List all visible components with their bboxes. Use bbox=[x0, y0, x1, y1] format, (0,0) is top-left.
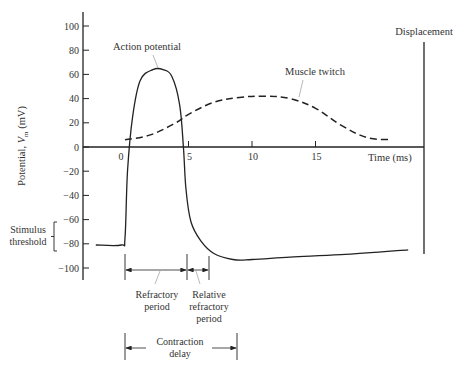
y-tick-label: −60 bbox=[63, 214, 79, 225]
refractory-label-2: period bbox=[144, 301, 170, 312]
displacement-label: Displacement bbox=[395, 26, 453, 37]
action-potential-curve bbox=[96, 68, 408, 260]
x-axis-label: Time (ms) bbox=[368, 152, 412, 164]
x-tick-label: 0 bbox=[119, 151, 124, 162]
action-potential-label: Action potential bbox=[113, 41, 181, 52]
muscle-twitch-curve bbox=[125, 96, 389, 140]
contraction-delay-label-2: delay bbox=[169, 348, 191, 359]
y-tick-label: −40 bbox=[63, 190, 79, 201]
relative-refractory-label-2: refractory bbox=[189, 301, 228, 312]
relative-refractory-label-3: period bbox=[196, 313, 222, 324]
y-tick-label: 40 bbox=[69, 93, 79, 104]
x-tick-label: 15 bbox=[312, 151, 322, 162]
stimulus-threshold-label-2: threshold bbox=[9, 236, 46, 247]
contraction-delay-label-1: Contraction bbox=[156, 336, 203, 347]
y-tick-label: 80 bbox=[69, 45, 79, 56]
y-tick-label: −20 bbox=[63, 166, 79, 177]
x-axis-ticks: 051015 bbox=[119, 141, 322, 162]
y-tick-label: −80 bbox=[63, 238, 79, 249]
y-tick-label: 0 bbox=[74, 142, 79, 153]
y-tick-label: 60 bbox=[69, 69, 79, 80]
refractory-label-1: Refractory bbox=[136, 289, 179, 300]
stimulus-threshold-label-1: Stimulus bbox=[10, 224, 46, 235]
action-potential-leader bbox=[153, 55, 158, 68]
y-axis-label: Potential, Vm (mV) bbox=[16, 106, 30, 186]
x-tick-label: 10 bbox=[248, 151, 258, 162]
y-tick-label: 100 bbox=[64, 21, 79, 32]
stimulus-threshold-bracket bbox=[51, 222, 57, 251]
relative-refractory-label-1: Relative bbox=[192, 289, 226, 300]
relative-refractory-leader bbox=[196, 271, 200, 284]
action-potential-chart: 100806040200−20−40−60−80−100 051015 Disp… bbox=[0, 0, 460, 372]
y-tick-label: 20 bbox=[69, 117, 79, 128]
refractory-leader bbox=[155, 271, 160, 284]
muscle-twitch-leader bbox=[299, 80, 303, 97]
x-tick-label: 5 bbox=[187, 151, 192, 162]
muscle-twitch-label: Muscle twitch bbox=[285, 66, 346, 77]
y-tick-label: −100 bbox=[58, 263, 79, 274]
